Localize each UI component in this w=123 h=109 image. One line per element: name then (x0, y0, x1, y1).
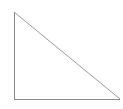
figure-canvas (0, 0, 123, 109)
canvas-background (0, 0, 123, 109)
right-triangle-svg (0, 0, 123, 109)
